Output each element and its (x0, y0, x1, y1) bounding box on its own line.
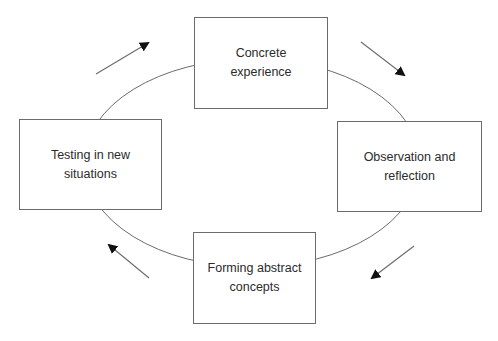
node-label: Forming abstract concepts (208, 259, 302, 297)
node-testing-new-situations: Testing in new situations (19, 119, 162, 210)
node-concrete-experience: Concrete experience (194, 17, 328, 109)
node-label: Concrete experience (230, 44, 291, 82)
arrow-concrete-to-observation (361, 42, 404, 75)
arrow-observation-to-abstract (372, 246, 414, 278)
node-label: Observation and reflection (364, 148, 456, 186)
node-observation-reflection: Observation and reflection (337, 121, 482, 212)
node-forming-abstract-concepts: Forming abstract concepts (193, 232, 316, 324)
arrow-abstract-to-testing (109, 245, 149, 278)
arrow-testing-to-concrete (96, 43, 148, 74)
node-label: Testing in new situations (51, 146, 130, 184)
